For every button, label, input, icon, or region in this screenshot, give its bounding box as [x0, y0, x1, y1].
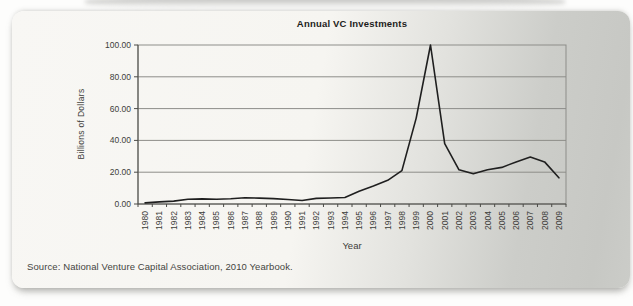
x-tick-label: 1996: [368, 211, 378, 230]
x-axis-title: Year: [138, 240, 566, 251]
x-tick-label: 1981: [154, 211, 164, 230]
x-tick-label: 1985: [211, 211, 221, 230]
x-tick-label: 1995: [354, 211, 364, 230]
x-tick-label: 1998: [397, 211, 407, 230]
x-tick-label: 1982: [169, 211, 179, 230]
plot-border: [138, 45, 566, 204]
x-tick-label: 1990: [283, 211, 293, 230]
x-tick-label: 1987: [240, 211, 250, 230]
y-tick-label: 20.00: [110, 167, 132, 177]
x-tick-label: 2001: [440, 211, 450, 230]
vc-investments-line: [145, 45, 559, 203]
x-tick-label: 1989: [269, 211, 279, 230]
y-tick-label: 100.00: [105, 40, 131, 50]
scanned-figure-page: { "figure": { "source": "Source: Nationa…: [0, 0, 633, 306]
figure-card: Annual VC Investments Billions of Dollar…: [12, 11, 630, 288]
source-note: Source: National Venture Capital Associa…: [27, 261, 293, 272]
x-tick-label: 2000: [425, 211, 435, 230]
x-tick-label: 2003: [468, 211, 478, 230]
x-tick-label: 1999: [411, 211, 421, 230]
x-tick-label: 1991: [297, 211, 307, 230]
scan-top-shadow: [85, 0, 565, 8]
y-tick-label: 0.00: [114, 199, 131, 209]
x-tick-label: 2007: [525, 211, 535, 230]
x-tick-label: 1997: [383, 211, 393, 230]
x-tick-label: 1992: [311, 211, 321, 230]
x-tick-label: 1984: [197, 211, 207, 230]
x-tick-label: 1994: [340, 211, 350, 230]
y-tick-label: 40.00: [110, 135, 132, 145]
x-tick-label: 2005: [497, 211, 507, 230]
x-tick-label: 1993: [326, 211, 336, 230]
x-tick-label: 2004: [483, 211, 493, 230]
x-tick-label: 2002: [454, 211, 464, 230]
x-tick-label: 2006: [511, 211, 521, 230]
x-tick-label: 2008: [540, 211, 550, 230]
x-tick-label: 2009: [554, 211, 564, 230]
x-tick-label: 1983: [183, 211, 193, 230]
y-tick-label: 60.00: [110, 104, 132, 114]
x-tick-label: 1986: [226, 211, 236, 230]
y-tick-label: 80.00: [110, 72, 132, 82]
x-tick-label: 1988: [254, 211, 264, 230]
x-tick-label: 1980: [140, 211, 150, 230]
